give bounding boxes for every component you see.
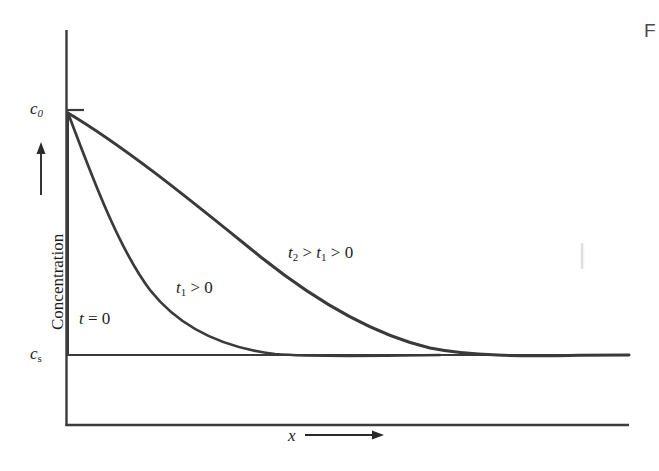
- t0-rest: = 0: [84, 309, 111, 328]
- t2-rest2: > 0: [327, 243, 354, 262]
- scan-artifact-smudge: [580, 243, 585, 269]
- cs-subscript: 0: [38, 107, 44, 119]
- t2-rest: >: [298, 243, 316, 262]
- x-axis-title: x: [288, 427, 296, 444]
- curve-t2: [68, 113, 629, 356]
- y-axis-arrow-icon: [37, 142, 46, 195]
- y-axis-title: Concentration: [48, 234, 68, 330]
- diffusion-concentration-figure: c0 cs t = 0 t1 > 0 t2 > t1 > 0 Concentra…: [0, 0, 659, 471]
- caption-fragment-text: F: [644, 20, 659, 44]
- annotation-t2: t2 > t1 > 0: [288, 244, 353, 263]
- cs-base: c: [30, 99, 38, 118]
- annotation-t1: t1 > 0: [176, 279, 213, 298]
- c0-base: c: [30, 344, 38, 363]
- t1-rest: > 0: [186, 278, 213, 297]
- y-tick-label-c0: cs: [30, 345, 42, 364]
- plot-canvas: [0, 0, 659, 471]
- annotation-t-equals-zero: t = 0: [79, 310, 110, 327]
- y-tick-label-cs: c0: [30, 100, 43, 119]
- c0-subscript: s: [38, 352, 42, 364]
- x-axis-arrow-icon: [305, 431, 384, 440]
